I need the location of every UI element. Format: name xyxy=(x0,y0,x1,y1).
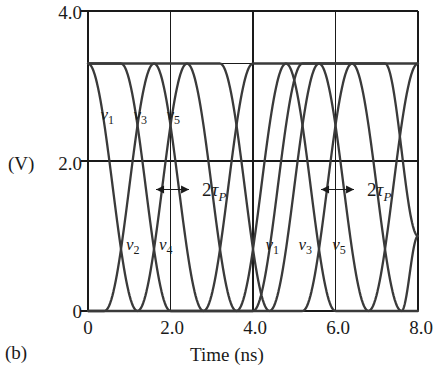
curve-label-v3-top: v3 xyxy=(133,106,147,126)
curve-label-v5-top: v5 xyxy=(166,106,180,126)
annotation-delay-right: 2τP xyxy=(367,180,391,206)
annotation-delay-left: 2τP xyxy=(202,180,226,206)
curve-label-v1-top: v1 xyxy=(100,106,114,126)
chart-figure: (V) 4.0 2.0 0 0 2.0 4.0 6.0 8.0 Time (ns… xyxy=(0,0,435,371)
curve-label-v5-bottom: v5 xyxy=(332,236,346,256)
curve-label-v4-bottom: v4 xyxy=(159,236,173,256)
curve-label-v2-bottom: v2 xyxy=(126,236,140,256)
curve-label-v1-bottom: v1 xyxy=(265,236,279,256)
curve-label-v3-bottom: v3 xyxy=(298,236,312,256)
